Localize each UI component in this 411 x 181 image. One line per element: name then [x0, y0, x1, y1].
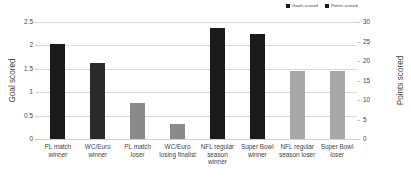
- bar: [210, 28, 225, 139]
- y-axis-left-tick-mark: [35, 92, 38, 93]
- y-axis-left-tick-mark: [35, 22, 38, 23]
- y-axis-right-tick-mark: [357, 42, 360, 43]
- y-axis-left-tick-label: 2: [29, 42, 33, 48]
- y-axis-left-tick-mark: [35, 69, 38, 70]
- gridline: [38, 92, 357, 93]
- y-axis-right-tick-label: 0: [363, 136, 367, 142]
- y-axis-right-tick-mark: [357, 81, 360, 82]
- y-axis-left-tick-mark: [35, 139, 38, 140]
- bar: [50, 44, 65, 139]
- gridline: [38, 45, 357, 46]
- x-axis-tick-label: PL matchloser: [118, 143, 158, 158]
- x-axis-tick-label: PL matchwinner: [38, 143, 78, 158]
- y-axis-right-tick-label: 20: [363, 58, 370, 64]
- bar: [130, 103, 145, 139]
- bar: [250, 34, 265, 139]
- y-axis-right-tick-mark: [357, 139, 360, 140]
- x-axis-tick-label-line: loser: [330, 151, 344, 158]
- y-axis-left-title: Goal scored: [8, 47, 17, 115]
- gridline: [38, 22, 357, 23]
- bar-chart: Goals scored Points scored Goal scored P…: [0, 0, 411, 181]
- x-axis-tick-label-line: Super Bowl: [241, 143, 274, 150]
- x-axis-tick-label-line: NFL regular: [201, 143, 235, 150]
- y-axis-left-tick-label: 1: [29, 89, 33, 95]
- y-axis-right-tick-label: 10: [363, 97, 370, 103]
- y-axis-right-tick-label: 30: [363, 19, 370, 25]
- x-axis-tick-label: Super Bowlloser: [317, 143, 357, 158]
- legend-swatch-icon: [325, 4, 329, 8]
- x-axis-tick-label-line: Super Bowl: [321, 143, 354, 150]
- x-axis-tick-label-line: winner: [248, 151, 267, 158]
- x-axis-tick-label-line: PL match: [124, 143, 151, 150]
- legend-swatch-icon: [286, 4, 290, 8]
- x-axis-tick-label: NFL regularseason loser: [277, 143, 317, 158]
- y-axis-right-tick-mark: [357, 61, 360, 62]
- chart-legend: Goals scored Points scored: [286, 4, 358, 8]
- x-axis-tick-label-line: winner: [49, 151, 68, 158]
- gridline: [38, 139, 357, 140]
- y-axis-left-tick-label: 0: [29, 136, 33, 142]
- x-axis-tick-label-line: season loser: [279, 151, 315, 158]
- y-axis-left-tick-mark: [35, 45, 38, 46]
- legend-entry-points-scored: Points scored: [325, 4, 358, 8]
- x-axis-tick-label: WC/Eurolosing finalist: [158, 143, 198, 158]
- legend-label: Points scored: [331, 4, 358, 8]
- x-axis-tick-label-line: season: [207, 151, 228, 158]
- x-axis-tick-label-line: NFL regular: [280, 143, 314, 150]
- x-axis-tick-label-line: WC/Euro: [165, 143, 191, 150]
- x-axis-tick-label: NFL regularseasonwinner: [198, 143, 238, 166]
- x-axis-tick-label: Super Bowlwinner: [237, 143, 277, 158]
- y-axis-right-tick-label: 25: [363, 39, 370, 45]
- legend-entry-goals-scored: Goals scored: [286, 4, 318, 8]
- x-axis-tick-label-line: loser: [131, 151, 145, 158]
- bar: [170, 124, 185, 139]
- y-axis-right-tick-mark: [357, 22, 360, 23]
- x-axis-tick-label-line: WC/Euro: [85, 143, 111, 150]
- x-axis-tick-label-line: winner: [208, 158, 227, 165]
- y-axis-right-tick-label: 15: [363, 78, 370, 84]
- x-axis-tick-label-line: losing finalist: [159, 151, 196, 158]
- bar: [90, 63, 105, 139]
- x-axis-tick-label-line: winner: [88, 151, 107, 158]
- gridline: [38, 69, 357, 70]
- y-axis-left-tick-label: 2.5: [24, 19, 33, 25]
- bar: [290, 71, 305, 139]
- y-axis-right-title: Points scored: [396, 47, 405, 115]
- x-axis-tick-label: WC/Eurowinner: [78, 143, 118, 158]
- legend-label: Goals scored: [292, 4, 318, 8]
- y-axis-left-tick-label: 1.5: [24, 66, 33, 72]
- y-axis-right-tick-mark: [357, 100, 360, 101]
- y-axis-left-tick-mark: [35, 116, 38, 117]
- bar: [330, 71, 345, 139]
- y-axis-right-tick-mark: [357, 120, 360, 121]
- y-axis-right-tick-label: 5: [363, 117, 367, 123]
- x-axis-tick-label-line: PL match: [45, 143, 72, 150]
- y-axis-left-tick-label: 0.5: [24, 113, 33, 119]
- plot-area: 2.521.510.50302520151050: [38, 22, 357, 139]
- gridline: [38, 116, 357, 117]
